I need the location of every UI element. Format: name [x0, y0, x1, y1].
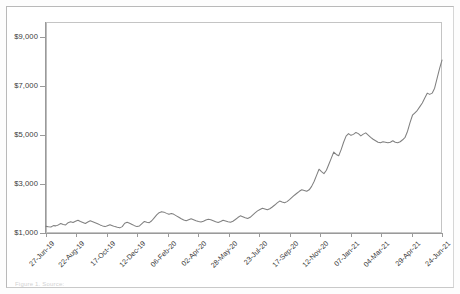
screenshot-page: $1,000$3,000$5,000$7,000$9,000 27-Jun-19… [0, 0, 460, 294]
y-tick: $5,000 [7, 130, 38, 140]
y-tick-mark [40, 184, 45, 185]
x-tick-mark [290, 233, 291, 237]
plot-area [46, 22, 442, 233]
x-tick-mark [351, 233, 352, 237]
y-axis-line [45, 22, 46, 234]
x-axis-line [45, 233, 443, 234]
y-tick-label: $5,000 [7, 130, 38, 139]
line-chart: $1,000$3,000$5,000$7,000$9,000 27-Jun-19… [7, 7, 455, 259]
x-tick-mark [229, 233, 230, 237]
y-tick: $7,000 [7, 81, 38, 91]
x-tick-mark [107, 233, 108, 237]
x-tick-mark [442, 233, 443, 237]
x-tick-mark [259, 233, 260, 237]
y-tick-label: $7,000 [7, 81, 38, 90]
y-tick-mark [40, 233, 45, 234]
x-tick-mark [46, 233, 47, 237]
x-tick-mark [381, 233, 382, 237]
y-tick-mark [40, 86, 45, 87]
x-tick-mark [320, 233, 321, 237]
x-tick-mark [76, 233, 77, 237]
x-tick-mark [137, 233, 138, 237]
y-tick: $1,000 [7, 228, 38, 238]
y-tick: $3,000 [7, 179, 38, 189]
y-tick-label: $9,000 [7, 32, 38, 41]
y-tick-label: $3,000 [7, 179, 38, 188]
x-tick-mark [412, 233, 413, 237]
y-tick: $9,000 [7, 32, 38, 42]
bottom-caption: Figure 1. Source: [15, 281, 64, 287]
x-tick-mark [168, 233, 169, 237]
y-tick-label: $1,000 [7, 228, 38, 237]
document-frame: $1,000$3,000$5,000$7,000$9,000 27-Jun-19… [6, 6, 454, 288]
x-tick-mark [198, 233, 199, 237]
y-tick-mark [40, 135, 45, 136]
y-tick-mark [40, 37, 45, 38]
